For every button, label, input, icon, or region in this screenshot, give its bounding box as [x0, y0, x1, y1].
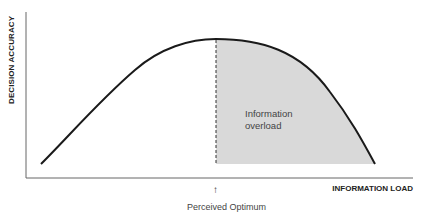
perceived-optimum-label: Perceived Optimum: [187, 202, 266, 212]
overload-line-1: Information: [245, 108, 293, 120]
overload-annotation: Information overload: [245, 108, 293, 132]
up-arrow-icon: ↑: [213, 184, 218, 195]
overload-line-2: overload: [245, 120, 293, 132]
y-axis-label: DECISION ACCURACY: [7, 16, 16, 104]
x-axis-label: INFORMATION LOAD: [332, 184, 413, 193]
